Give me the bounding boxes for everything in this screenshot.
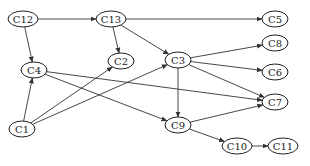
node-label: C5 [268,14,282,25]
node-c6: C6 [262,64,288,80]
node-label: C9 [171,120,185,131]
edge-c1-to-c4 [24,78,33,121]
edge-c13-to-c3 [121,25,169,54]
node-c2: C2 [108,53,134,69]
node-label: C8 [268,38,282,49]
node-label: C2 [114,56,128,67]
node-label: C1 [15,124,29,135]
node-c11: C11 [268,138,298,154]
node-label: C7 [268,97,282,108]
node-label: C13 [101,14,121,25]
edge-c9-to-c10 [189,129,224,142]
node-c12: C12 [8,11,38,27]
node-label: C4 [27,65,41,76]
node-c1: C1 [9,121,35,137]
node-c4: C4 [21,62,47,78]
edge-c4-to-c9 [45,74,167,121]
node-c3: C3 [165,52,191,68]
node-label: C12 [13,14,33,25]
edge-c3-to-c6 [191,62,263,71]
node-c10: C10 [222,138,252,154]
node-label: C10 [227,141,247,152]
edges-layer [24,19,268,146]
nodes-layer: C12C13C5C8C2C3C6C4C7C1C9C10C11 [8,11,298,154]
edge-c13-to-c2 [113,27,119,53]
node-c7: C7 [262,94,288,110]
edge-c3-to-c8 [191,45,263,58]
edge-c9-to-c7 [190,105,263,122]
node-label: C6 [268,67,282,78]
node-c9: C9 [165,117,191,133]
node-c13: C13 [96,11,126,27]
node-label: C3 [171,55,185,66]
node-label: C11 [273,141,293,152]
dependency-graph: C12C13C5C8C2C3C6C4C7C1C9C10C11 [0,0,310,166]
node-c5: C5 [262,11,288,27]
node-c8: C8 [262,35,288,51]
edge-c1-to-c3 [33,65,168,125]
edge-c4-to-c7 [47,72,263,101]
edge-c12-to-c4 [25,27,33,62]
